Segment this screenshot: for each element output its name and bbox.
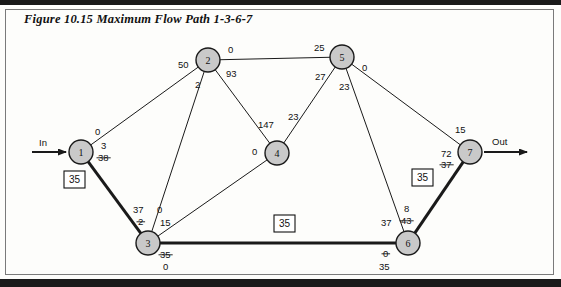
edge-1-3 — [88, 162, 141, 234]
label-node5-from-node4: 27 — [315, 71, 326, 82]
label-node2-to-node3: 2 — [195, 79, 200, 90]
label-node4-from-node2: 147 — [258, 119, 274, 130]
node-7[interactable]: 7 — [458, 140, 482, 164]
edge-5-7 — [352, 64, 461, 145]
edge-5-6 — [346, 68, 404, 231]
node-label-3: 3 — [146, 238, 151, 249]
node-6[interactable]: 6 — [396, 231, 420, 255]
label-node7-from-node6: 72 — [441, 148, 452, 159]
flow-box-path-1-3: 35 — [64, 171, 85, 188]
flow-box-path-6-7: 35 — [412, 169, 433, 186]
label-node5-from-node2: 25 — [314, 42, 325, 53]
label-node6-from-node5: 37 — [381, 217, 392, 228]
label-node5-to-node7: 0 — [362, 62, 367, 73]
node-1[interactable]: 1 — [69, 140, 93, 164]
node-3[interactable]: 3 — [136, 231, 160, 255]
label-node6-from-node3-current: 35 — [379, 261, 390, 272]
label-node2-from-node1: 50 — [178, 59, 189, 70]
network-flow-diagram: In Out 1234567 0338500932147230250272337… — [0, 0, 561, 287]
node-2[interactable]: 2 — [196, 48, 220, 72]
edge-2-5 — [220, 57, 330, 59]
edge-2-4 — [215, 70, 270, 144]
flow-box-path-1-3-value: 35 — [69, 174, 81, 185]
label-node4-to-node5: 23 — [288, 111, 299, 122]
flow-box-path-6-7-value: 35 — [417, 172, 429, 183]
label-node6-to-node7: 8 — [404, 203, 409, 214]
node-4[interactable]: 4 — [265, 141, 289, 165]
label-node3-from-node2: 0 — [157, 204, 162, 215]
node-5[interactable]: 5 — [330, 45, 354, 69]
flow-box-path-3-6: 35 — [274, 215, 295, 232]
label-node7-from-node5: 15 — [455, 124, 466, 135]
in-label: In — [39, 137, 47, 148]
edge-3-4 — [158, 160, 267, 236]
label-node3-to-node6-current: 0 — [163, 261, 168, 272]
label-node2-to-node5: 0 — [228, 44, 233, 55]
label-node3-from-node1: 37 — [133, 204, 144, 215]
edge-1-2 — [91, 67, 199, 145]
figure-container: Figure 10.15 Maximum Flow Path 1-3-6-7 I… — [0, 0, 561, 287]
node-label-6: 6 — [406, 238, 411, 249]
edge-4-5 — [284, 67, 336, 143]
out-label: Out — [492, 136, 508, 147]
label-node2-to-node4: 93 — [226, 68, 237, 79]
flow-box-path-3-6-value: 35 — [279, 218, 291, 229]
node-label-7: 7 — [468, 147, 473, 158]
node-label-4: 4 — [275, 148, 280, 159]
boxed-flow-labels-layer: 353535 — [64, 169, 433, 232]
label-node4-from-node3: 0 — [252, 146, 257, 157]
node-label-5: 5 — [340, 52, 345, 63]
node-label-2: 2 — [206, 55, 211, 66]
label-node3-to-node4: 15 — [160, 217, 171, 228]
label-node1-to-node2: 0 — [95, 126, 100, 137]
label-node5-to-node6: 23 — [339, 81, 350, 92]
label-node1-to-node3-current: 3 — [101, 140, 106, 151]
node-label-1: 1 — [79, 147, 84, 158]
